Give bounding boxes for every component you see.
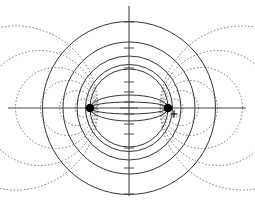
figure-background [0, 0, 255, 206]
dipole-figure-container [0, 0, 255, 206]
dipole-field-diagram [0, 0, 255, 206]
charge-right [164, 104, 172, 112]
charge-left [86, 104, 94, 112]
